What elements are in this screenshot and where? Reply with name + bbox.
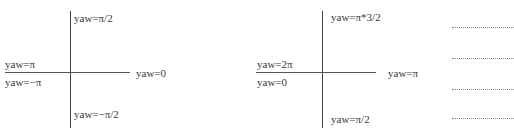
horizontal-axis bbox=[5, 72, 130, 73]
label-left-upper: yaw=2π bbox=[257, 58, 293, 70]
answer-line-4 bbox=[452, 118, 514, 119]
label-top: yaw=π*3/2 bbox=[331, 11, 381, 23]
label-right: yaw=0 bbox=[136, 67, 166, 79]
horizontal-axis bbox=[256, 72, 376, 73]
label-left-lower: yaw=−π bbox=[5, 76, 41, 88]
label-left-upper: yaw=π bbox=[5, 58, 35, 70]
label-top: yaw=π/2 bbox=[74, 12, 113, 24]
yaw-diagram-right: yaw=π*3/2 yaw=2π yaw=0 yaw=π yaw=π/2 bbox=[250, 0, 440, 137]
vertical-axis bbox=[70, 11, 71, 128]
answer-line-1 bbox=[452, 27, 514, 28]
label-left-lower: yaw=0 bbox=[257, 76, 287, 88]
vertical-axis bbox=[322, 11, 323, 128]
label-bottom: yaw=π/2 bbox=[331, 113, 370, 125]
yaw-diagram-left: yaw=π/2 yaw=π yaw=−π yaw=0 yaw=−π/2 bbox=[0, 0, 180, 137]
label-bottom: yaw=−π/2 bbox=[74, 108, 119, 120]
answer-line-3 bbox=[452, 89, 514, 90]
label-right: yaw=π bbox=[388, 67, 418, 79]
answer-line-2 bbox=[452, 58, 514, 59]
